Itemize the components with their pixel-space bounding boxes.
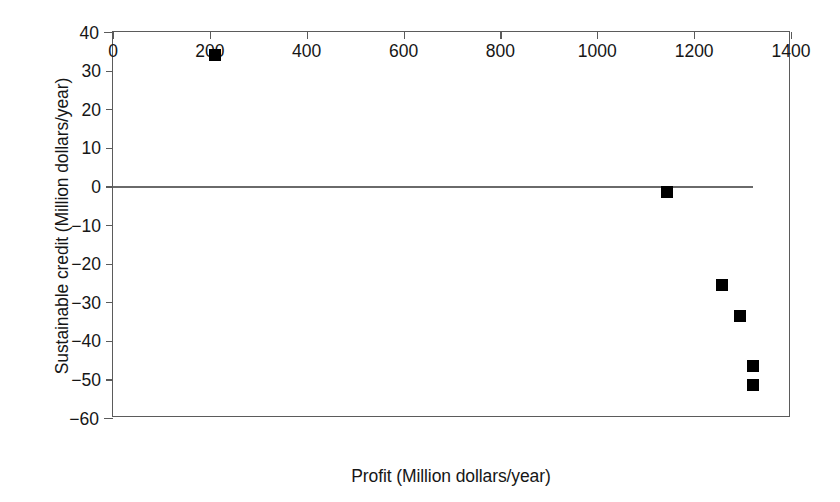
y-tick-label: 40 (80, 22, 99, 43)
y-tick-mark: −50 (106, 379, 113, 380)
y-tick-mark: −60 (104, 418, 113, 419)
data-point-2 (716, 279, 728, 291)
x-tick-label: 1400 (772, 41, 811, 62)
x-tick-label: 0 (108, 41, 118, 62)
y-tick-mark: 40 (104, 32, 113, 33)
data-point-4 (747, 360, 759, 372)
y-tick-label: −60 (69, 408, 99, 429)
x-tick-label: 600 (389, 41, 418, 62)
x-tick-label: 1200 (675, 41, 714, 62)
x-tick-label: 800 (486, 41, 515, 62)
y-tick-mark: 30 (106, 71, 113, 72)
y-tick-mark: −20 (106, 264, 113, 265)
x-tick-mark (791, 32, 792, 39)
y-tick-mark: −40 (106, 341, 113, 342)
x-axis-title: Profit (Million dollars/year) (112, 466, 790, 487)
data-point-0 (209, 49, 221, 61)
y-tick-label: −10 (71, 215, 101, 236)
data-point-1 (661, 186, 673, 198)
y-tick-label: −50 (71, 369, 101, 390)
y-tick-mark: 20 (106, 109, 113, 110)
y-tick-label: 10 (82, 138, 101, 159)
x-tick-label: 1000 (578, 41, 617, 62)
scatter-chart-figure: Sustainable credit (Million dollars/year… (0, 0, 840, 502)
y-tick-label: 0 (91, 176, 101, 197)
x-tick-label: 400 (292, 41, 321, 62)
y-tick-label: 30 (82, 61, 101, 82)
data-point-5 (747, 379, 759, 391)
y-tick-label: 20 (82, 99, 101, 120)
x-tick-mark (597, 32, 598, 39)
y-tick-label: −30 (71, 292, 101, 313)
y-tick-label: −40 (71, 331, 101, 352)
data-point-3 (734, 310, 746, 322)
x-tick-mark (694, 32, 695, 39)
x-tick-mark (307, 32, 308, 39)
x-tick-mark (404, 32, 405, 39)
x-tick-mark (210, 32, 211, 39)
x-tick-mark (500, 32, 501, 39)
y-tick-mark: −10 (106, 225, 113, 226)
zero-reference-line (113, 186, 753, 187)
y-tick-mark: −30 (106, 302, 113, 303)
y-tick-mark: 0 (106, 186, 113, 187)
x-tick-mark (113, 32, 114, 39)
y-tick-mark: 10 (106, 148, 113, 149)
plot-area: 403020100−10−20−30−40−50−60 020040060080… (112, 31, 790, 417)
y-tick-label: −20 (71, 254, 101, 275)
